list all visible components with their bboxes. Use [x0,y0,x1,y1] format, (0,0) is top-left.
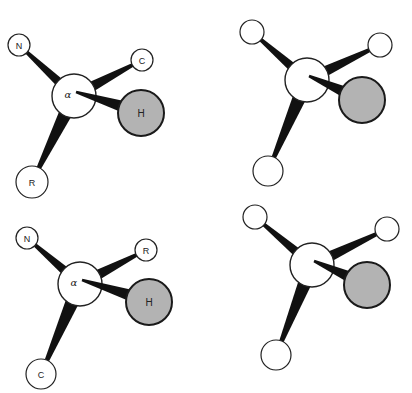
atom-hydrogen: H [118,90,164,136]
alpha-label: α [71,277,78,288]
molecule-bottom-right [243,205,399,370]
atom-label: C [139,56,146,66]
atom-hydrogen: H [126,279,172,325]
atom-bottom [253,156,283,186]
atom-n: N [16,227,38,249]
atom-c: C [26,359,56,389]
atom-label: N [24,234,31,244]
atom-upper-right [375,217,399,241]
atom-upper-right [368,33,392,57]
atom-label: C [38,370,45,380]
atom-label: R [143,246,150,256]
atom-r: R [16,166,48,198]
atom-upper-left [240,20,264,44]
atom-label: R [29,178,36,188]
molecule-top-left: NCRαH [8,34,164,198]
atom-bottom [261,340,291,370]
hydrogen-label: H [145,297,152,308]
atom-c: C [131,49,153,71]
atom-n: N [8,34,30,56]
hydrogen-label: H [137,108,144,119]
molecule-bottom-left: NRCαH [16,227,172,389]
atom-hydrogen [339,77,385,123]
atom-label: N [16,41,23,51]
alpha-carbon-figure: NCRαHNRCαH [0,0,412,393]
molecule-top-right [240,20,392,186]
atom-r: R [135,239,157,261]
atom-hydrogen [344,262,390,308]
atom-upper-left [243,205,267,229]
alpha-label: α [65,89,72,100]
